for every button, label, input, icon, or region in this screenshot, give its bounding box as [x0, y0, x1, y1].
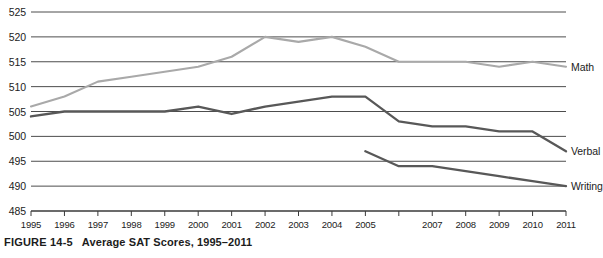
- series-line-writing: [365, 151, 566, 186]
- y-axis-tick-label: 525: [0, 7, 26, 17]
- y-axis-tick-label: 505: [0, 107, 26, 117]
- x-axis-tick-label: 1997: [82, 219, 114, 230]
- x-axis-tick-label: 2003: [283, 219, 315, 230]
- x-axis-ticks-group: [31, 211, 566, 216]
- y-axis-tick-label: 485: [0, 206, 26, 216]
- series-label-writing: Writing: [571, 180, 603, 192]
- y-axis-tick-label: 510: [0, 82, 26, 92]
- series-label-verbal: Verbal: [571, 145, 600, 157]
- x-axis-tick-label: 2004: [316, 219, 348, 230]
- chart-plot-area: 485490495500505510515520525: [0, 0, 597, 218]
- y-axis-tick-label: 490: [0, 181, 26, 191]
- x-axis-tick-label: 2002: [249, 219, 281, 230]
- x-axis-tick-label: 2000: [182, 219, 214, 230]
- x-axis-tick-label: 1999: [149, 219, 181, 230]
- x-axis-tick-label: 1995: [15, 219, 47, 230]
- series-line-math: [31, 37, 566, 107]
- y-axis-tick-label: 515: [0, 57, 26, 67]
- figure-caption: FIGURE 14-5Average SAT Scores, 1995–2011: [4, 236, 593, 248]
- gridlines-group: [31, 12, 566, 186]
- x-axis-tick-label: 1998: [115, 219, 147, 230]
- x-axis-tick-label: 2008: [450, 219, 482, 230]
- y-axis-tick-label: 520: [0, 32, 26, 42]
- series-label-math: Math: [571, 61, 594, 73]
- x-axis-tick-label: 1996: [48, 219, 80, 230]
- figure-title: Average SAT Scores, 1995–2011: [82, 236, 252, 248]
- x-axis-tick-label: 2011: [550, 219, 582, 230]
- series-line-verbal: [31, 97, 566, 152]
- line-chart-svg: [0, 0, 597, 218]
- x-axis-tick-label: 2007: [416, 219, 448, 230]
- figure-number: FIGURE 14-5: [4, 236, 73, 248]
- y-axis-tick-label: 495: [0, 156, 26, 166]
- x-axis-tick-label: 2005: [349, 219, 381, 230]
- x-axis-tick-label: 2001: [216, 219, 248, 230]
- x-axis-tick-label: 2009: [483, 219, 515, 230]
- x-axis-tick-label: 2010: [517, 219, 549, 230]
- y-axis-tick-label: 500: [0, 131, 26, 141]
